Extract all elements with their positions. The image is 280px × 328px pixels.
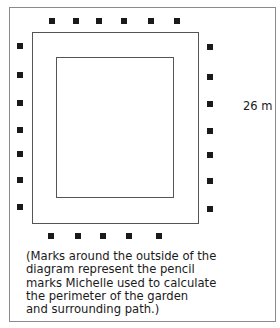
pencil-mark-right — [207, 44, 213, 50]
pencil-mark-left — [17, 72, 23, 78]
pencil-mark-right — [207, 128, 213, 134]
pencil-mark-right — [207, 206, 213, 212]
garden-rectangle — [56, 57, 174, 198]
pencil-mark-right — [207, 74, 213, 80]
pencil-mark-top — [73, 18, 79, 24]
pencil-mark-top — [49, 18, 55, 24]
caption-line: diagram represent the pencil — [26, 263, 276, 276]
pencil-mark-right — [207, 178, 213, 184]
pencil-mark-bottom — [100, 233, 106, 239]
pencil-mark-right — [207, 101, 213, 107]
pencil-mark-bottom — [75, 233, 81, 239]
caption-line: (Marks around the outside of the — [26, 250, 276, 263]
pencil-mark-left — [17, 127, 23, 133]
pencil-mark-left — [17, 43, 23, 49]
pencil-mark-top — [121, 18, 127, 24]
pencil-mark-top — [148, 18, 154, 24]
caption-line: and surrounding path.) — [26, 303, 276, 316]
pencil-mark-bottom — [156, 233, 162, 239]
pencil-mark-right — [207, 152, 213, 158]
pencil-mark-bottom — [48, 233, 54, 239]
caption-line: the perimeter of the garden — [26, 290, 276, 303]
pencil-mark-left — [17, 100, 23, 106]
pencil-mark-left — [17, 177, 23, 183]
pencil-mark-top — [96, 18, 102, 24]
caption: (Marks around the outside of the diagram… — [26, 250, 276, 316]
pencil-mark-left — [17, 151, 23, 157]
dimension-label: 26 m — [243, 100, 273, 113]
caption-line: marks Michelle used to calculate — [26, 277, 276, 290]
pencil-mark-left — [17, 204, 23, 210]
pencil-mark-bottom — [126, 233, 132, 239]
pencil-mark-top — [174, 18, 180, 24]
